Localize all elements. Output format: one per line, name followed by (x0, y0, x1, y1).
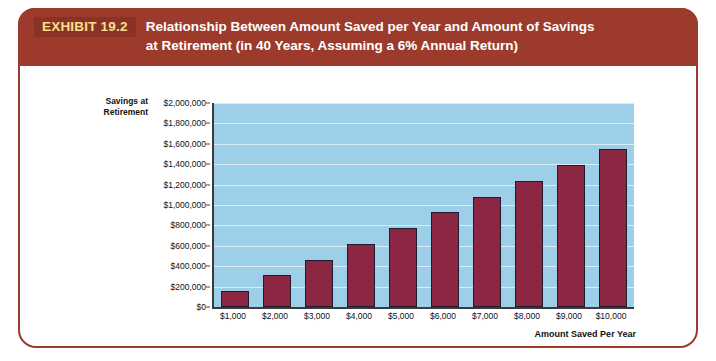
exhibit-card: EXHIBIT 19.2 Relationship Between Amount… (18, 8, 698, 348)
y-axis-tick-labels: $0$200,000$400,000$600,000$800,000$1,000… (138, 68, 210, 346)
exhibit-header: EXHIBIT 19.2 Relationship Between Amount… (18, 8, 698, 66)
x-axis-tick-label: $8,000 (514, 311, 540, 321)
y-axis-tick-label: $800,000 (171, 220, 206, 230)
bar (263, 275, 292, 307)
x-axis-tick-label: $6,000 (430, 311, 456, 321)
x-axis-tick-label: $1,000 (220, 311, 246, 321)
y-axis-tick-mark (206, 164, 210, 165)
x-axis-tick-labels: $1,000$2,000$3,000$4,000$5,000$6,000$7,0… (212, 311, 632, 325)
bar (347, 244, 376, 307)
bar (389, 228, 418, 307)
y-axis-tick-label: $1,400,000 (163, 159, 206, 169)
y-axis-tick-label: $1,800,000 (163, 118, 206, 128)
y-axis-tick-mark (206, 103, 210, 104)
bar (473, 197, 502, 307)
bar (599, 149, 628, 307)
bar (557, 165, 586, 307)
y-axis-tick-label: $1,000,000 (163, 200, 206, 210)
y-axis-tick-label: $0 (197, 302, 206, 312)
y-axis-tick-label: $2,000,000 (163, 98, 206, 108)
bar (515, 181, 544, 307)
y-axis-tick-mark (206, 266, 210, 267)
plot-area (212, 103, 634, 309)
bar-chart: Savings at Retirement $0$200,000$400,000… (20, 68, 696, 346)
y-axis-tick-mark (206, 286, 210, 287)
y-axis-tick-label: $200,000 (171, 282, 206, 292)
x-axis-tick-label: $4,000 (346, 311, 372, 321)
x-axis-tick-label: $3,000 (304, 311, 330, 321)
x-axis-title: Amount Saved Per Year (420, 329, 636, 339)
y-axis-tick-label: $1,200,000 (163, 180, 206, 190)
y-axis-tick-label: $400,000 (171, 261, 206, 271)
y-axis-tick-mark (206, 184, 210, 185)
bar (305, 260, 334, 307)
y-axis-tick-label: $600,000 (171, 241, 206, 251)
y-axis-tick-mark (206, 225, 210, 226)
y-axis-tick-mark (206, 143, 210, 144)
exhibit-title-line-2: at Retirement (in 40 Years, Assuming a 6… (146, 36, 595, 55)
x-axis-tick-label: $9,000 (556, 311, 582, 321)
exhibit-title: Relationship Between Amount Saved per Ye… (146, 17, 595, 55)
bar-series (214, 103, 634, 307)
x-axis-tick-label: $7,000 (472, 311, 498, 321)
y-axis-tick-mark (206, 123, 210, 124)
exhibit-number-tag: EXHIBIT 19.2 (34, 17, 136, 37)
y-axis-tick-mark (206, 307, 210, 308)
exhibit-title-line-1: Relationship Between Amount Saved per Ye… (146, 17, 595, 36)
bar (221, 291, 250, 307)
x-axis-tick-label: $5,000 (388, 311, 414, 321)
x-axis-tick-label: $10,000 (596, 311, 627, 321)
x-axis-tick-label: $2,000 (262, 311, 288, 321)
y-axis-tick-label: $1,600,000 (163, 139, 206, 149)
bar (431, 212, 460, 307)
y-axis-tick-mark (206, 205, 210, 206)
y-axis-tick-mark (206, 245, 210, 246)
